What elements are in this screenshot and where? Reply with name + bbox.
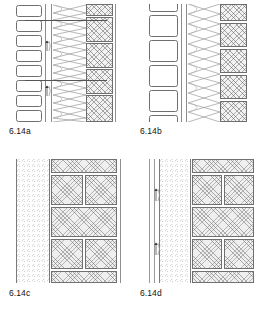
batt-block xyxy=(16,95,42,107)
masonry-course xyxy=(192,271,254,283)
masonry-block xyxy=(220,49,247,73)
panel-6-14a: 6.14a xyxy=(0,0,131,150)
masonry-block xyxy=(86,69,113,94)
air-cavity-strip-b xyxy=(181,4,187,122)
masonry-block xyxy=(220,23,247,47)
masonry-unit xyxy=(85,239,117,269)
masonry-course xyxy=(51,159,117,173)
caption-6-14a: 6.14a xyxy=(9,126,31,136)
masonry-unit xyxy=(224,175,254,205)
masonry-block xyxy=(220,101,247,122)
masonry-unit xyxy=(192,175,222,205)
batt-block xyxy=(149,15,178,37)
tie-mesh-b xyxy=(188,4,220,122)
wall-tie-marker xyxy=(153,241,162,257)
outer-face-rule-a xyxy=(115,4,116,122)
batt-block xyxy=(16,50,42,62)
caption-6-14c: 6.14c xyxy=(9,288,30,298)
masonry-block xyxy=(86,4,113,16)
masonry-course xyxy=(51,207,117,237)
masonry-block xyxy=(220,75,247,99)
masonry-block xyxy=(220,4,247,21)
batt-block xyxy=(149,40,178,62)
masonry-course xyxy=(192,207,254,237)
leader-line xyxy=(25,20,107,21)
batt-block xyxy=(16,5,42,17)
masonry-leaf-b xyxy=(220,4,247,122)
batt-block xyxy=(149,115,178,122)
batt-block xyxy=(16,110,42,122)
masonry-leaf-c xyxy=(51,159,117,283)
batt-block xyxy=(16,35,42,47)
granular-insulation-d xyxy=(159,159,191,283)
batt-block xyxy=(16,80,42,92)
masonry-course xyxy=(192,159,254,173)
caption-6-14d: 6.14d xyxy=(140,288,162,298)
batt-block xyxy=(16,20,42,32)
granular-insulation-c xyxy=(16,159,50,283)
detail-drawing-b xyxy=(149,4,249,122)
panel-6-14b: 6.14b xyxy=(131,0,263,150)
detail-drawing-d xyxy=(149,159,255,283)
insulation-batts-a xyxy=(16,4,43,122)
insulation-blocks-b xyxy=(149,4,179,122)
masonry-block xyxy=(86,43,113,68)
outer-lining-strip-d xyxy=(149,159,155,283)
panel-6-14d: 6.14d xyxy=(131,155,263,310)
batt-block xyxy=(16,65,42,77)
panel-6-14c: 6.14c xyxy=(0,155,131,310)
masonry-unit xyxy=(51,239,83,269)
detail-drawing-c xyxy=(16,159,122,283)
masonry-block xyxy=(86,95,113,122)
wall-tie-marker xyxy=(44,85,52,97)
batt-block xyxy=(149,4,178,12)
figure-sheet: 6.14a xyxy=(0,0,263,310)
wall-tie-marker xyxy=(44,40,52,52)
batt-block xyxy=(149,90,178,112)
wall-tie-marker xyxy=(153,187,162,203)
batt-block xyxy=(149,65,178,87)
masonry-leaf-a xyxy=(86,4,113,122)
masonry-leaf-d xyxy=(192,159,254,283)
outer-face-rule-c xyxy=(120,159,121,283)
masonry-course xyxy=(51,271,117,283)
air-cavity-strip-a xyxy=(45,4,52,122)
caption-6-14b: 6.14b xyxy=(140,126,162,136)
masonry-unit xyxy=(224,239,254,269)
detail-drawing-a xyxy=(16,4,116,122)
masonry-unit xyxy=(192,239,222,269)
masonry-unit xyxy=(85,175,117,205)
tie-mesh-a xyxy=(53,4,86,122)
masonry-unit xyxy=(51,175,83,205)
leader-line xyxy=(25,80,107,81)
